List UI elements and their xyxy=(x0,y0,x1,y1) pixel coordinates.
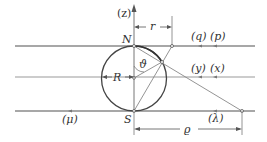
arrow-y-icon xyxy=(198,76,202,79)
arrow-q-icon xyxy=(198,45,202,48)
rho-arrow-right-icon xyxy=(236,127,242,131)
point-r-end xyxy=(171,45,174,48)
r-arrow-left-icon xyxy=(134,25,139,29)
projection-diagram: (z) N S r R ϑ ϱ (q) (p) (y) (x) (μ) (λ) xyxy=(0,0,267,142)
label-theta: ϑ xyxy=(139,58,147,71)
label-p: (p) xyxy=(210,30,226,43)
label-y: (y) xyxy=(191,62,206,75)
label-R: R xyxy=(112,71,121,84)
label-S: S xyxy=(124,113,132,126)
point-center xyxy=(133,77,136,80)
point-sphere xyxy=(161,61,164,64)
R-arrow-left-icon xyxy=(102,75,107,79)
arrow-x-icon xyxy=(213,76,217,79)
z-axis-label: (z) xyxy=(117,7,131,20)
point-N xyxy=(133,45,136,48)
label-r: r xyxy=(150,20,156,33)
rho-arrow-left-icon xyxy=(134,127,140,131)
projection-line-north xyxy=(134,46,242,111)
label-q: (q) xyxy=(191,30,207,43)
label-mu: (μ) xyxy=(62,113,78,126)
label-N: N xyxy=(121,33,132,46)
label-x: (x) xyxy=(210,62,225,75)
arrow-p-icon xyxy=(213,45,217,48)
label-rho: ϱ xyxy=(184,123,191,136)
z-axis-arrow-icon xyxy=(132,4,137,12)
label-lambda: (λ) xyxy=(208,112,224,125)
r-arrow-right-icon xyxy=(167,25,172,29)
